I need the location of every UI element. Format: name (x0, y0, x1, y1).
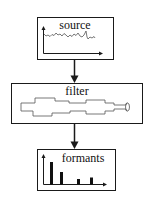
source-label: source (59, 18, 90, 32)
arrow-filter-to-formants (71, 124, 79, 149)
filter-label: filter (65, 84, 88, 98)
source-filter-diagram: source filter (0, 0, 148, 199)
source-node: source (38, 18, 114, 60)
filter-node: filter (12, 84, 143, 124)
formants-label: formants (62, 151, 105, 165)
formants-node: formants (38, 150, 116, 191)
arrow-source-to-filter (71, 60, 79, 83)
